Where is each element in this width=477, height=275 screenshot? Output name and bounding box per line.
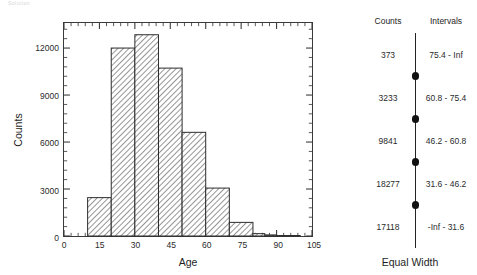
x-tick-label: 105 xyxy=(307,240,321,250)
y-tick-label: 12000 xyxy=(35,43,59,53)
axis-tick-labels: 0300060009000120000153045607590105 xyxy=(64,23,312,236)
histogram-panel: Counts Age 03000600090001200001530456075… xyxy=(0,0,340,275)
bins-summary-panel: Counts Intervals 37375.4 - Inf323360.8 -… xyxy=(340,0,477,275)
bins-header-intervals: Intervals xyxy=(430,16,462,26)
bin-boundary-dot xyxy=(412,115,420,123)
bin-interval-value: 46.2 - 60.8 xyxy=(426,136,467,146)
x-tick-label: 30 xyxy=(131,240,140,250)
bin-count-value: 17118 xyxy=(376,222,399,232)
x-axis-title: Age xyxy=(179,256,198,268)
bin-boundary-dot xyxy=(412,201,420,209)
plot-frame: 0300060009000120000153045607590105 xyxy=(63,22,313,237)
x-tick-label: 75 xyxy=(238,240,247,250)
bin-boundary-dot xyxy=(412,158,420,166)
x-tick-label: 90 xyxy=(274,240,283,250)
bin-count-value: 18277 xyxy=(376,179,400,189)
x-tick-label: 0 xyxy=(62,240,67,250)
x-tick-label: 15 xyxy=(95,240,104,250)
y-axis-title: Counts xyxy=(12,113,24,146)
y-tick-label: 3000 xyxy=(40,186,59,196)
x-tick-label: 45 xyxy=(166,240,175,250)
bin-interval-value: 60.8 - 75.4 xyxy=(426,93,467,103)
bins-header-counts: Counts xyxy=(375,16,402,26)
bin-count-value: 373 xyxy=(381,50,395,60)
bin-interval-value: 75.4 - Inf xyxy=(429,50,463,60)
binning-method-label: Equal Width xyxy=(382,256,439,268)
bin-interval-value: -Inf - 31.6 xyxy=(428,222,464,232)
y-tick-label: 6000 xyxy=(40,138,59,148)
bins-axis-line xyxy=(415,33,416,248)
bin-interval-value: 31.6 - 46.2 xyxy=(426,179,467,189)
x-tick-label: 60 xyxy=(202,240,211,250)
bin-count-value: 9841 xyxy=(379,136,398,146)
y-tick-label: 0 xyxy=(54,233,59,243)
bin-count-value: 3233 xyxy=(379,93,398,103)
bin-boundary-dot xyxy=(412,72,420,80)
y-tick-label: 9000 xyxy=(40,91,59,101)
